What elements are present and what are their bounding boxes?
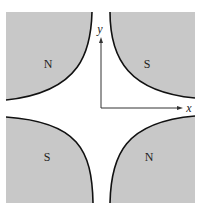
quadrupole-diagram: N S S N y x (0, 0, 205, 209)
y-axis-arrow-icon (99, 37, 103, 43)
pole-label-top-right: S (144, 57, 151, 71)
pole-top-left (6, 12, 92, 100)
pole-label-bottom-right: N (145, 150, 154, 164)
y-axis-label: y (96, 22, 103, 36)
pole-label-bottom-left: S (44, 150, 51, 164)
x-axis-arrow-icon (177, 106, 183, 110)
pole-label-top-left: N (44, 57, 53, 71)
pole-top-right (110, 12, 195, 98)
x-axis-label: x (185, 101, 192, 115)
